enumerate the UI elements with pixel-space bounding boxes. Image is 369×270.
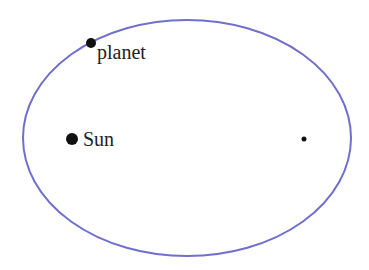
empty-focus-dot (302, 137, 307, 142)
sun-dot (66, 133, 78, 145)
planet-dot (86, 38, 96, 48)
sun-label: Sun (83, 128, 114, 150)
planet-label: planet (97, 41, 146, 64)
orbit-diagram: Sun planet (0, 0, 369, 270)
